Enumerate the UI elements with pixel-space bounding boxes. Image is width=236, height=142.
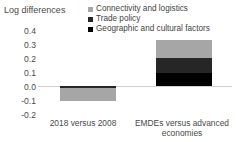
stacked-bar-chart: Log differences Connectivity and logisti…	[0, 0, 236, 142]
y-axis-title: Log differences	[4, 5, 65, 16]
bar-emdes-versus-advanced-economies[interactable]	[156, 40, 212, 86]
legend-label: Trade policy	[96, 14, 140, 24]
y-tick-label: 0.4	[4, 27, 36, 36]
legend-item-connectivity-and-logistics: Connectivity and logistics	[88, 4, 210, 14]
x-category-label-2018-versus-2008: 2018 versus 2008	[40, 118, 126, 128]
legend-item-trade-policy: Trade policy	[88, 14, 210, 24]
y-tick-label: 0.1	[4, 69, 36, 78]
legend-swatch-icon	[88, 7, 93, 12]
y-tick-label: -0.2	[4, 111, 36, 120]
bar-segment-geographic-and-cultural-factors	[156, 73, 212, 86]
bar-2018-versus-2008[interactable]	[60, 86, 116, 101]
y-tick-label: 0.0	[4, 83, 36, 92]
y-tick-label: -0.1	[4, 97, 36, 106]
y-tick-label: 0.3	[4, 41, 36, 50]
y-tick-label: 0.2	[4, 55, 36, 64]
bar-segment-connectivity-and-logistics	[60, 88, 116, 101]
legend-label: Connectivity and logistics	[96, 4, 188, 14]
bar-segment-trade-policy	[156, 58, 212, 73]
y-axis: 0.4 0.3 0.2 0.1 0.0 -0.1 -0.2	[0, 30, 36, 114]
bar-segment-connectivity-and-logistics	[156, 40, 212, 58]
legend-swatch-icon	[88, 17, 93, 22]
plot-area	[38, 30, 232, 114]
x-category-label-emdes-versus-advanced-economies: EMDEs versus advanced economies	[130, 118, 234, 138]
